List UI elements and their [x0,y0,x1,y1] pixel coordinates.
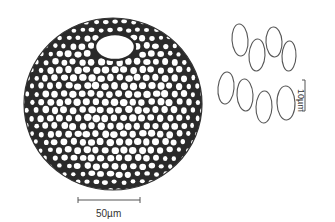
cyst-cell [165,99,172,106]
cyst-cell [181,107,187,114]
cyst-cell [125,123,132,130]
cyst-cell [99,28,104,32]
cyst-cell [107,28,112,32]
apical-pore [95,34,135,60]
cyst-cell [88,59,95,66]
cyst-cell [65,50,72,57]
cyst-cell [130,83,137,91]
cyst-cell [69,91,76,98]
cyst-cell [66,82,73,89]
cyst-cell [154,172,159,176]
cyst-cell [48,147,53,152]
cyst-cell [101,115,108,122]
cyst-cell [167,146,173,152]
cyst-cell [61,155,68,161]
cyst-cell [166,131,173,138]
cyst-cell [70,107,77,114]
cyst-cell [144,28,149,32]
cyst-cell [74,52,81,58]
cyst-cell [88,74,95,81]
cyst-cell [144,42,150,49]
cyst-cell [116,172,123,178]
cyst-cell [97,171,104,177]
cyst-cell [158,82,165,89]
cyst-cell [56,99,63,106]
cyst-cell [88,106,96,113]
cyst-cell [70,74,77,81]
cyst-cell [152,123,158,129]
cyst-cell [92,82,99,89]
cyst-cell [125,139,132,146]
cyst-cell [120,147,127,154]
cyst-cell [182,60,186,65]
cyst-cell [81,28,86,32]
cyst-cell [106,91,113,98]
cyst-cell [148,147,155,154]
cyst-cell [47,82,53,89]
cyst-cell [148,50,155,56]
cyst-cell [115,107,122,113]
cyst-cell [120,130,127,136]
cyst-cell [139,52,146,58]
cyst-cell [159,164,164,168]
cyst-cell [61,43,65,48]
cyst-cell [157,131,163,138]
cyst-cell [131,179,136,183]
cyst-cell [34,107,39,113]
spore [281,41,296,71]
cyst-cell [52,58,58,64]
cyst-cell [125,155,132,162]
cyst-cell [107,74,113,82]
cyst-cell [162,75,169,82]
cyst-cell [148,98,155,105]
cyst-cell [138,114,145,121]
cyst-cell [152,106,158,113]
cyst-cell [83,66,90,72]
cyst-cell [149,163,155,169]
cyst-cell [24,108,28,113]
cyst-cell [71,138,77,145]
cyst-cell [52,107,58,114]
cyst-cell [57,51,63,57]
cyst-cell [88,122,94,129]
cyst-cell [177,147,181,152]
cyst-cell [30,83,34,88]
cyst-cell [83,98,90,105]
cyst-cell [92,130,98,137]
cyst-cell [166,83,172,89]
cyst-cell [120,66,127,73]
cyst-cell [134,91,141,97]
cyst-cell [61,60,67,66]
cyst-cell [84,82,91,89]
cyst-cell [79,106,85,113]
cyst-cell [148,82,155,89]
cyst-cell [93,98,99,105]
cyst-cell [65,66,71,73]
cyst-cell [97,155,104,162]
cyst-cell [139,164,146,170]
spore [255,91,272,124]
cyst-cell [125,75,133,82]
cyst-cell [181,139,185,144]
cyst-cell [176,66,182,73]
cyst-cell [143,155,150,162]
cyst-cell [42,75,48,82]
cyst-cell [94,20,99,24]
cyst-cell [176,83,182,90]
cyst-cell [30,131,34,136]
cyst-cell [102,99,109,106]
cyst-cell [134,74,141,81]
cyst-cell [48,131,54,138]
cyst-cell [135,154,141,161]
cyst-cell [111,98,119,106]
cyst-cell [79,74,86,81]
cyst-cell [121,163,127,170]
cyst-cell [39,132,44,137]
cyst-cell [42,91,49,98]
cyst-cell [75,115,81,122]
cyst-cell [67,164,72,168]
cyst-cell [56,66,63,73]
cyst-cell [117,27,122,31]
cyst-cell [42,106,49,114]
cyst-cell [163,156,168,161]
